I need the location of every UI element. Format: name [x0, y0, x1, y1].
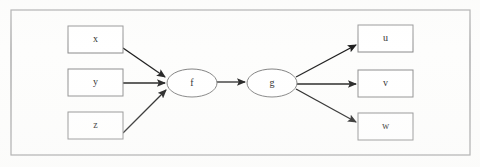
output-node-w[interactable]: w: [358, 113, 413, 140]
input-node-x[interactable]: x: [68, 26, 123, 53]
output-label-w: w: [382, 120, 390, 131]
edge-z-to-f: [123, 90, 166, 133]
output-label-u: u: [383, 32, 388, 43]
input-label-x: x: [93, 33, 98, 44]
edge-g-to-w: [296, 89, 356, 122]
output-label-v: v: [383, 77, 388, 88]
diagram-svg: x y z f g u v w: [0, 0, 480, 167]
function-node-f[interactable]: f: [167, 69, 217, 97]
input-label-y: y: [93, 76, 98, 87]
diagram-canvas: x y z f g u v w: [0, 0, 480, 167]
input-node-z[interactable]: z: [68, 112, 123, 139]
function-label-g: g: [270, 77, 275, 88]
function-node-g[interactable]: g: [247, 69, 297, 97]
input-label-z: z: [93, 119, 98, 130]
edge-g-to-u: [296, 45, 356, 77]
input-node-y[interactable]: y: [68, 69, 123, 96]
output-node-u[interactable]: u: [358, 25, 413, 52]
output-node-v[interactable]: v: [358, 70, 413, 97]
edge-group: [123, 45, 356, 133]
edge-x-to-f: [123, 48, 165, 77]
